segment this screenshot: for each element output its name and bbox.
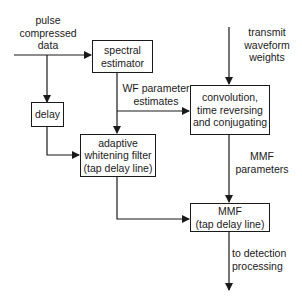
mmf-parameters-label: MMF parameters bbox=[232, 150, 292, 175]
adaptive-whitening-filter-label: adaptive whitening filter (tap delay lin… bbox=[84, 137, 153, 175]
input-label-pulse-data: pulse compressed data bbox=[18, 14, 78, 52]
mmf-label: MMF (tap delay line) bbox=[196, 205, 265, 230]
spectral-estimator-block: spectral estimator bbox=[92, 40, 153, 73]
convolution-label: convolution, time reversing and conjugat… bbox=[193, 91, 267, 129]
delay-label: delay bbox=[35, 108, 60, 121]
delay-block: delay bbox=[31, 102, 64, 127]
input-label-transmit-weights: transmit waveform weights bbox=[237, 26, 297, 64]
convolution-block: convolution, time reversing and conjugat… bbox=[190, 85, 270, 135]
spectral-estimator-label: spectral estimator bbox=[101, 44, 144, 69]
mmf-block: MMF (tap delay line) bbox=[190, 203, 270, 232]
adaptive-whitening-filter-block: adaptive whitening filter (tap delay lin… bbox=[80, 134, 156, 177]
output-label: to detection processing bbox=[232, 247, 302, 272]
wf-parameter-estimates-label: WF parameter estimates bbox=[120, 82, 192, 107]
